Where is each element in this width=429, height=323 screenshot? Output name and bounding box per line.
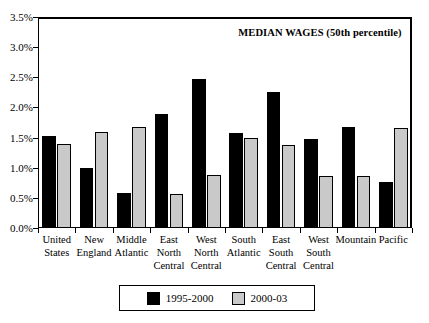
bars-layer	[38, 17, 412, 228]
bar-1-9	[394, 128, 408, 228]
legend-label: 1995-2000	[166, 292, 214, 305]
bar-0-6	[267, 92, 281, 228]
y-tick-mark	[33, 107, 38, 108]
bar-0-2	[117, 193, 131, 228]
bar-0-9	[379, 182, 393, 228]
y-tick-label: 3.5%	[10, 11, 33, 23]
y-tick-mark	[33, 77, 38, 78]
y-tick-mark	[33, 17, 38, 18]
y-tick-label: 1.5%	[10, 132, 33, 144]
x-tick-label: Pacific	[369, 233, 418, 246]
gray-swatch	[232, 292, 245, 305]
y-tick-mark	[33, 47, 38, 48]
y-tick-mark	[33, 168, 38, 169]
bar-0-0	[42, 136, 56, 228]
y-axis: 0.0%0.5%1.0%1.5%2.0%2.5%3.0%3.5%	[0, 0, 33, 323]
y-tick-mark	[33, 198, 38, 199]
y-tick-mark	[33, 138, 38, 139]
bar-0-7	[304, 139, 318, 228]
bar-1-2	[132, 127, 146, 228]
black-swatch	[147, 292, 160, 305]
bar-1-4	[207, 175, 221, 228]
bar-0-4	[192, 79, 206, 228]
y-tick-label: 2.5%	[10, 71, 33, 83]
bar-1-7	[319, 176, 333, 228]
bar-0-3	[155, 114, 169, 228]
bar-1-3	[170, 194, 184, 228]
bar-0-5	[229, 133, 243, 228]
bar-1-5	[244, 138, 258, 228]
bar-0-1	[80, 168, 94, 228]
y-tick-label: 1.0%	[10, 162, 33, 174]
bar-1-1	[95, 132, 109, 228]
legend-entry-0: 1995-2000	[147, 292, 214, 305]
y-tick-label: 0.5%	[10, 192, 33, 204]
y-tick-label: 3.0%	[10, 41, 33, 53]
legend-label: 2000-03	[251, 292, 288, 305]
bar-1-6	[282, 145, 296, 228]
chart-legend: 1995-20002000-03	[119, 285, 315, 311]
y-tick-label: 2.0%	[10, 101, 33, 113]
bar-0-8	[342, 127, 356, 228]
bar-1-8	[357, 176, 371, 228]
legend-entry-1: 2000-03	[232, 292, 288, 305]
median-wages-bar-chart: MEDIAN WAGES (50th percentile) 0.0%0.5%1…	[0, 0, 429, 323]
bar-1-0	[57, 144, 71, 228]
y-tick-label: 0.0%	[10, 222, 33, 234]
